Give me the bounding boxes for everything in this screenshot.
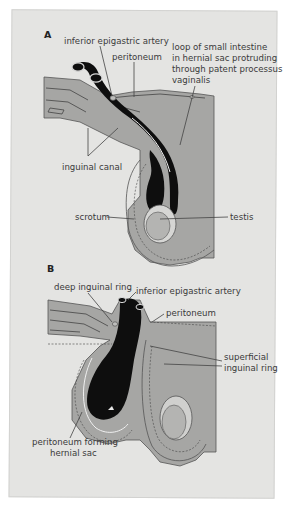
panel-b: B deep inguinal ring inferior epigastric… — [32, 263, 278, 466]
panel-a-letter: A — [44, 29, 52, 40]
label-sac-line1: peritoneum forming — [32, 437, 118, 447]
panel-a: A inferior epigastric artery peritoneum … — [44, 29, 283, 266]
label-inferior-epigastric-artery-b: inferior epigastric artery — [136, 286, 241, 296]
vessel-section — [72, 63, 84, 71]
testis-a — [146, 212, 170, 240]
label-inferior-epigastric-artery-a: inferior epigastric artery — [64, 36, 169, 46]
label-deep-inguinal-ring: deep inguinal ring — [54, 282, 132, 292]
inferior-epigastric-artery-section — [110, 96, 116, 101]
leader-peritoneum-b — [152, 314, 164, 322]
label-sac-line2: hernial sac — [50, 448, 97, 458]
label-loop-line3: through patent processus — [172, 64, 283, 74]
leader-artery-b — [128, 292, 136, 300]
label-loop-line4: vaginalis — [172, 75, 211, 85]
testis-b — [162, 405, 186, 439]
label-peritoneum-b: peritoneum — [166, 308, 216, 318]
label-scrotum: scrotum — [75, 212, 110, 222]
label-testis: testis — [230, 212, 254, 222]
inferior-epigastric-artery-section-b — [112, 322, 117, 326]
label-loop-line1: loop of small intestine — [172, 42, 267, 52]
panel-b-letter: B — [47, 263, 54, 274]
label-superficial-line1: superficial — [224, 352, 268, 362]
label-loop-line2: in hernial sac protruding — [172, 53, 277, 63]
vessel-section — [118, 297, 126, 302]
vessel-section — [136, 304, 144, 309]
vessel-section — [90, 74, 102, 82]
label-peritoneum-a: peritoneum — [112, 52, 162, 62]
inguinal-hernia-diagram: A inferior epigastric artery peritoneum … — [0, 0, 284, 510]
label-inguinal-canal: inguinal canal — [62, 162, 122, 172]
label-superficial-line2: inguinal ring — [224, 363, 278, 373]
